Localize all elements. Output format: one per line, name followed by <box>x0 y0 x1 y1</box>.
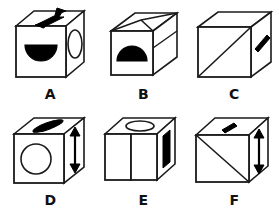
cube-d-drawing <box>4 110 97 198</box>
cube-label-b: B <box>97 86 190 102</box>
cube-a-mark-ellipse-icon <box>68 30 82 58</box>
cube-label-c: C <box>188 86 279 102</box>
cube-f-drawing <box>188 110 279 198</box>
cube-cell-b: B <box>97 4 190 113</box>
cube-label-a: A <box>4 86 97 102</box>
cube-cell-e: E <box>97 110 190 219</box>
cube-cell-c: C <box>188 4 279 113</box>
cube-e-drawing <box>97 110 190 198</box>
cube-c-drawing <box>188 4 279 92</box>
cube-label-f: F <box>188 192 279 208</box>
cube-a-drawing <box>4 4 97 92</box>
cube-e-face-front-left <box>105 134 131 180</box>
cube-d-mark-circle-icon <box>21 144 51 174</box>
cube-e-mark-ellipse-icon <box>126 121 154 131</box>
cube-cell-a: A <box>4 4 97 113</box>
cube-e-face-front-right <box>131 134 157 180</box>
cube-puzzle-figure: A B <box>0 0 279 219</box>
cube-e-mark-thick-bar-icon <box>163 130 170 168</box>
cube-label-d: D <box>4 192 97 208</box>
cube-label-e: E <box>97 192 190 208</box>
cube-cell-f: F <box>188 110 279 219</box>
cube-b-drawing <box>97 4 190 92</box>
cube-cell-d: D <box>4 110 97 219</box>
